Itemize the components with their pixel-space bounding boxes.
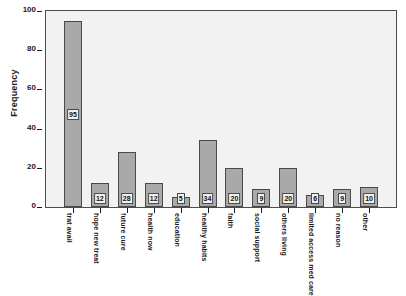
x-axis-tick-label: limited access med care (308, 213, 315, 296)
y-axis-tick-mark (37, 207, 42, 208)
bar-value-label: 10 (363, 193, 375, 204)
bar-value-label: 34 (202, 193, 214, 204)
x-axis-tick-label: hope new treat (93, 213, 100, 264)
bar-value-label: 9 (257, 193, 265, 204)
bar-value-label: 9 (338, 193, 346, 204)
bar-group: 12 (86, 11, 113, 207)
x-axis-tick-label: other (362, 213, 369, 231)
x-axis-tick-label: future cure (120, 213, 127, 251)
y-axis-tick-mark (37, 168, 42, 169)
bars-container: 95122812534209206910 (46, 11, 396, 207)
y-axis-tick-mark (37, 129, 42, 130)
bar-group: 20 (275, 11, 302, 207)
x-axis-category: others living (275, 208, 302, 294)
x-axis-tick-label: education (174, 213, 181, 247)
x-axis-category: hope new treat (86, 208, 113, 294)
x-axis-category: limited access med care (302, 208, 329, 294)
x-axis-tick-label: others living (281, 213, 288, 256)
x-axis-category: faith (221, 208, 248, 294)
x-axis-tick-label: health now (147, 213, 154, 251)
x-axis-labels: trat availhope new treatfuture curehealt… (46, 208, 396, 294)
y-axis-tick-label: 0 (6, 201, 36, 210)
y-axis-tick-mark (37, 50, 42, 51)
x-axis-category: future cure (113, 208, 140, 294)
bar-group: 5 (167, 11, 194, 207)
x-axis-tick-label: no reason (335, 213, 342, 247)
bar-value-label: 12 (148, 193, 160, 204)
x-axis-tick-mark (234, 208, 235, 213)
x-axis-category: trat avail (59, 208, 86, 294)
x-axis-tick-label: healthy habits (201, 213, 208, 261)
bar-group: 10 (356, 11, 383, 207)
bar-value-label: 5 (177, 193, 185, 204)
bar-group: 34 (194, 11, 221, 207)
bar-group: 20 (221, 11, 248, 207)
x-axis-tick-mark (73, 208, 74, 213)
y-axis-title: Frequency (9, 53, 19, 133)
x-axis-tick-mark (288, 208, 289, 213)
y-axis-tick-label: 80 (6, 44, 36, 53)
bar-value-label: 20 (282, 193, 294, 204)
bar-value-label: 28 (121, 193, 133, 204)
bar-group: 95 (59, 11, 86, 207)
y-axis-tick-label: 20 (6, 162, 36, 171)
x-axis-tick-label: trat avail (66, 213, 73, 243)
y-axis-tick-label: 60 (6, 83, 36, 92)
x-axis-tick-mark (315, 208, 316, 213)
x-axis-tick-label: social support (254, 213, 261, 262)
x-axis-category: other (356, 208, 383, 294)
x-axis-tick-label: faith (227, 213, 234, 228)
bar-value-label: 12 (94, 193, 106, 204)
x-axis-category: no reason (329, 208, 356, 294)
x-axis-category: healthy habits (194, 208, 221, 294)
bar-group: 6 (302, 11, 329, 207)
y-axis-tick-label: 100 (6, 5, 36, 14)
bar-group: 12 (140, 11, 167, 207)
bar-group: 9 (248, 11, 275, 207)
x-axis-tick-mark (369, 208, 370, 213)
bar-value-label: 95 (67, 109, 79, 120)
y-axis-tick-mark (37, 11, 42, 12)
x-axis-tick-mark (261, 208, 262, 213)
x-axis-category: social support (248, 208, 275, 294)
bar-value-label: 20 (229, 193, 241, 204)
x-axis-tick-mark (342, 208, 343, 213)
bar-group: 9 (329, 11, 356, 207)
bar-value-label: 6 (311, 193, 319, 204)
x-axis-category: education (167, 208, 194, 294)
bar-group: 28 (113, 11, 140, 207)
y-axis-tick-mark (37, 89, 42, 90)
y-axis-tick-label: 40 (6, 123, 36, 132)
x-axis-category: health now (140, 208, 167, 294)
